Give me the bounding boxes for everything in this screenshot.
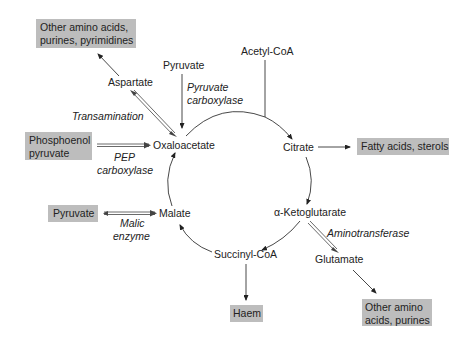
product-label: Other amino <box>365 301 423 313</box>
enzyme-aminotransferase: Aminotransferase <box>326 227 409 239</box>
product-box-other-aa-purines: Other amino acids, purines <box>362 299 432 326</box>
node-citrate: Citrate <box>283 141 314 153</box>
product-label: acids, purines <box>365 314 430 326</box>
input-glutamate: Glutamate <box>315 253 364 265</box>
product-box-other-aa-purines-pyrimidines: Other amino acids, purines, pyrimidines <box>36 19 136 48</box>
product-label: Phosphoenol <box>29 134 90 146</box>
input-aspartate: Aspartate <box>108 76 153 88</box>
product-label: Haem <box>233 307 261 319</box>
product-box-phosphoenol-pyruvate: Phosphoenol pyruvate <box>25 132 92 160</box>
product-label: Pyruvate <box>53 207 95 219</box>
input-acetyl-coa: Acetyl-CoA <box>241 45 294 57</box>
product-box-fatty-acids-sterols: Fatty acids, sterols <box>357 138 449 155</box>
enzyme-pyruvate-carboxylase: Pyruvate <box>187 81 229 93</box>
enzyme-pep-carboxylase: carboxylase <box>97 164 153 176</box>
input-pyruvate: Pyruvate <box>163 59 205 71</box>
node-malate: Malate <box>159 207 191 219</box>
product-label: Fatty acids, sterols <box>361 140 449 152</box>
product-label: Other amino acids, <box>40 21 128 33</box>
node-oxaloacetate: Oxaloacetate <box>153 139 215 151</box>
enzyme-malic-enzyme: enzyme <box>113 230 150 242</box>
cycle-arrows <box>168 112 312 252</box>
product-label: purines, pyrimidines <box>40 34 133 46</box>
node-succinyl-coa: Succinyl-CoA <box>214 248 277 260</box>
enzyme-pyruvate-carboxylase: carboxylase <box>187 94 243 106</box>
product-box-pyruvate: Pyruvate <box>48 205 98 222</box>
node-alpha-ketoglutarate: α-Ketoglutarate <box>274 206 346 218</box>
enzyme-pep-carboxylase: PEP <box>114 151 135 163</box>
product-label: pyruvate <box>29 147 69 159</box>
product-box-haem: Haem <box>230 305 263 322</box>
enzyme-malic-enzyme: Malic <box>120 217 145 229</box>
tca-cycle-diagram: Other amino acids, purines, pyrimidines … <box>0 0 472 338</box>
enzyme-transamination: Transamination <box>72 110 144 122</box>
